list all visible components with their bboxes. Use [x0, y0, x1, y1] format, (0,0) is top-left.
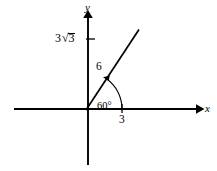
- ray-length-label: 6: [96, 61, 102, 73]
- figure-canvas: [0, 0, 217, 171]
- angle-diagram-figure: y x 3√3 3 6 60°: [0, 0, 217, 171]
- radical-overbar: [68, 33, 75, 34]
- x-intercept-value-label: 3: [119, 114, 125, 126]
- y-intercept-value-label: 3√3: [55, 32, 75, 44]
- terminal-ray-line: [86, 30, 139, 111]
- x-axis-arrowhead: [196, 104, 205, 114]
- x-axis-label: x: [205, 103, 210, 114]
- y-axis-label: y: [85, 2, 90, 13]
- radical-sign: √3: [61, 32, 75, 44]
- angle-measure-label: 60°: [97, 101, 112, 112]
